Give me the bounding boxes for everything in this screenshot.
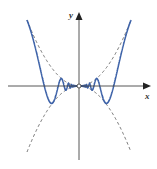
- curve-left-branch: [27, 20, 78, 103]
- origin-open-circle: [77, 84, 81, 88]
- x-axis-arrow-icon: [143, 83, 151, 90]
- y-axis-arrow-icon: [76, 12, 83, 20]
- curve-right-branch: [80, 20, 131, 103]
- function-plot: [0, 0, 157, 169]
- y-axis-label: y: [69, 10, 73, 20]
- x-axis-label: x: [145, 91, 150, 101]
